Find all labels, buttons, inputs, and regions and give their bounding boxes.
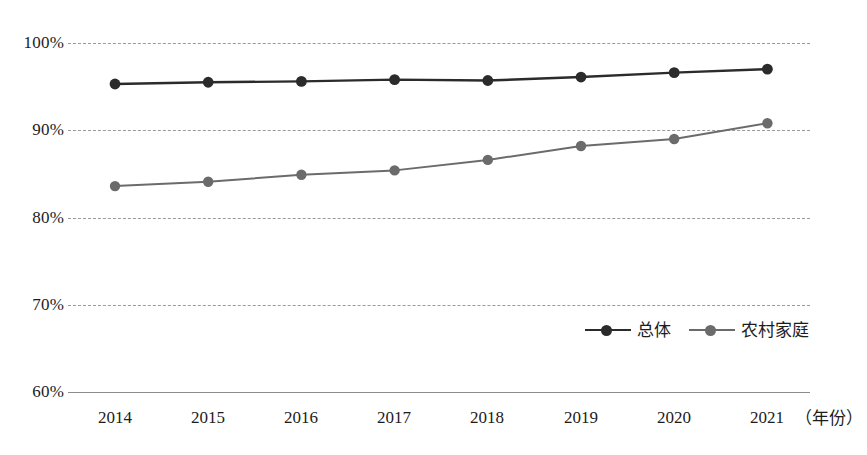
chart-legend: 总体 农村家庭 [585,321,809,339]
data-point-marker[interactable] [389,165,399,175]
legend-label: 农村家庭 [741,321,809,339]
data-point-marker[interactable] [203,177,213,187]
data-point-marker[interactable] [762,118,772,128]
data-point-marker[interactable] [110,79,121,90]
data-point-marker[interactable] [762,64,773,75]
legend-marker-icon [585,323,631,337]
data-point-marker[interactable] [296,170,306,180]
data-point-marker[interactable] [483,155,493,165]
x-axis-unit-label: （年份） [795,408,863,428]
legend-marker-icon [689,323,735,337]
data-point-marker[interactable] [576,72,587,83]
legend-label: 总体 [637,321,671,339]
series-line [115,123,767,186]
legend-item-rural[interactable]: 农村家庭 [689,321,809,339]
data-point-marker[interactable] [576,141,586,151]
series-overall [110,64,773,90]
data-point-marker[interactable] [389,74,400,85]
plot-area [0,0,867,455]
data-point-marker[interactable] [669,134,679,144]
data-point-marker[interactable] [669,67,680,78]
line-chart: 100% 90% 80% 70% 60% 2014 2015 2016 2017… [0,0,867,455]
data-point-marker[interactable] [110,181,120,191]
data-point-marker[interactable] [203,77,214,88]
data-point-marker[interactable] [296,76,307,87]
series-rural [110,118,773,191]
legend-item-overall[interactable]: 总体 [585,321,671,339]
data-point-marker[interactable] [482,75,493,86]
